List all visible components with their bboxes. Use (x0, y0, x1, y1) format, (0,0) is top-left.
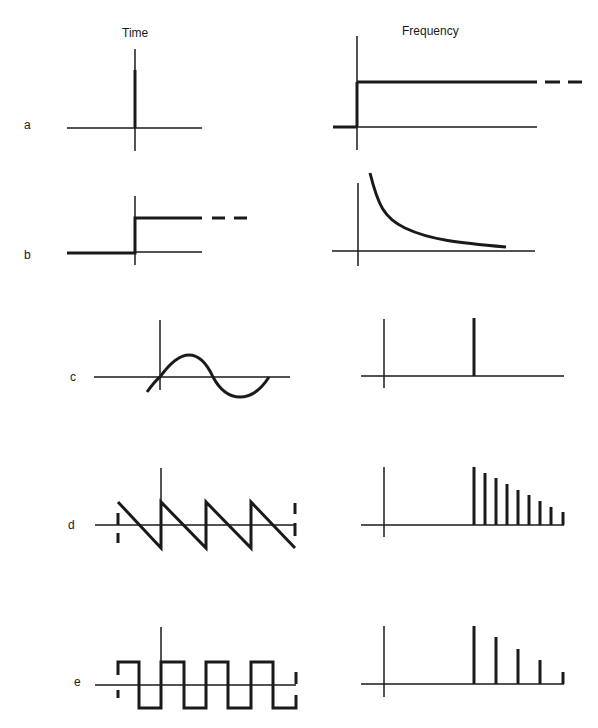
row-d-frequency-plot (361, 467, 564, 537)
step (67, 218, 202, 253)
row-c-frequency-plot (361, 318, 564, 388)
row-e-frequency-plot (361, 626, 564, 697)
row-b-time-plot (67, 196, 247, 265)
row-d-time-plot (95, 468, 295, 548)
row-a-frequency-plot (333, 36, 582, 150)
row-e-time-plot (95, 627, 296, 708)
decay-curve (370, 173, 506, 247)
row-b-frequency-plot (332, 173, 535, 266)
sine-wave (147, 355, 269, 397)
row-c-time-plot (94, 320, 290, 397)
signal-diagram (0, 0, 598, 728)
row-a-time-plot (67, 49, 202, 151)
